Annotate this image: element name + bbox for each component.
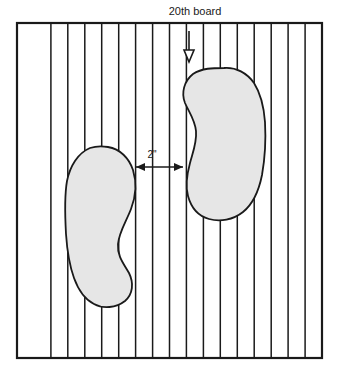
dimension-label: 2" bbox=[147, 149, 157, 160]
board-floor bbox=[17, 23, 322, 358]
diagram-canvas: 20th board 2" bbox=[0, 0, 338, 379]
right-footprint bbox=[183, 68, 265, 220]
board-floor-diagram: 20th board 2" bbox=[0, 0, 338, 379]
twentieth-board-label: 20th board bbox=[169, 5, 222, 17]
